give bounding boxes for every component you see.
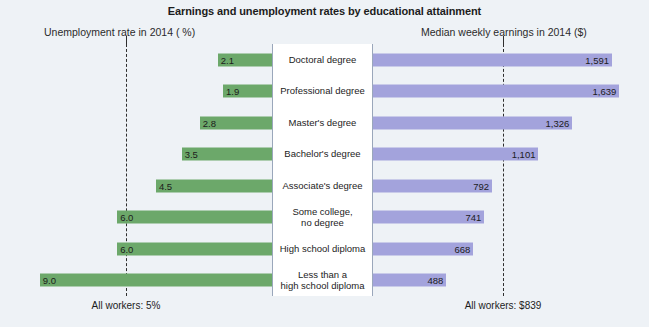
unemployment-value: 6.0 (120, 212, 133, 223)
earnings-value: 1,101 (498, 149, 535, 160)
earnings-value: 741 (444, 212, 481, 223)
chart-container: Earnings and unemployment rates by educa… (0, 0, 649, 327)
category-label: Bachelor's degree (272, 149, 373, 160)
earnings-value: 1,326 (532, 117, 569, 128)
chart-row: 9.0Less than ahigh school diploma488 (0, 265, 649, 296)
category-label: Some college,no degree (272, 207, 373, 228)
unemployment-value: 3.5 (185, 149, 198, 160)
chart-title: Earnings and unemployment rates by educa… (0, 5, 649, 17)
unemployment-value: 6.0 (120, 243, 133, 254)
right-reference-note: All workers: $839 (465, 300, 542, 311)
category-label: Associate's degree (272, 180, 373, 191)
unemployment-value: 9.0 (43, 275, 56, 286)
category-label: High school diploma (272, 243, 373, 254)
chart-row: 2.8Master's degree1,326 (0, 107, 649, 138)
unemployment-value: 1.9 (226, 86, 239, 97)
unemployment-value: 4.5 (159, 180, 172, 191)
unemployment-bar (117, 211, 272, 224)
category-label: Doctoral degree (272, 54, 373, 65)
category-label: Professional degree (272, 86, 373, 97)
chart-row: 6.0High school diploma668 (0, 233, 649, 264)
chart-row: 3.5Bachelor's degree1,101 (0, 139, 649, 170)
left-reference-note: All workers: 5% (92, 300, 161, 311)
earnings-value: 1,639 (579, 86, 616, 97)
category-label: Master's degree (272, 117, 373, 128)
chart-row: 6.0Some college,no degree741 (0, 202, 649, 233)
unemployment-bar (156, 179, 272, 192)
chart-row: 4.5Associate's degree792 (0, 170, 649, 201)
left-axis-label: Unemployment rate in 2014 ( %) (44, 26, 195, 38)
chart-row: 1.9Professional degree1,639 (0, 76, 649, 107)
unemployment-bar (40, 274, 272, 287)
category-label: Less than ahigh school diploma (272, 270, 373, 291)
earnings-value: 668 (433, 243, 470, 254)
unemployment-bar (117, 242, 272, 255)
earnings-value: 488 (406, 275, 443, 286)
earnings-value: 1,591 (572, 54, 609, 65)
unemployment-value: 2.1 (221, 54, 234, 65)
earnings-value: 792 (452, 180, 489, 191)
unemployment-value: 2.8 (203, 117, 216, 128)
chart-row: 2.1Doctoral degree1,591 (0, 44, 649, 75)
